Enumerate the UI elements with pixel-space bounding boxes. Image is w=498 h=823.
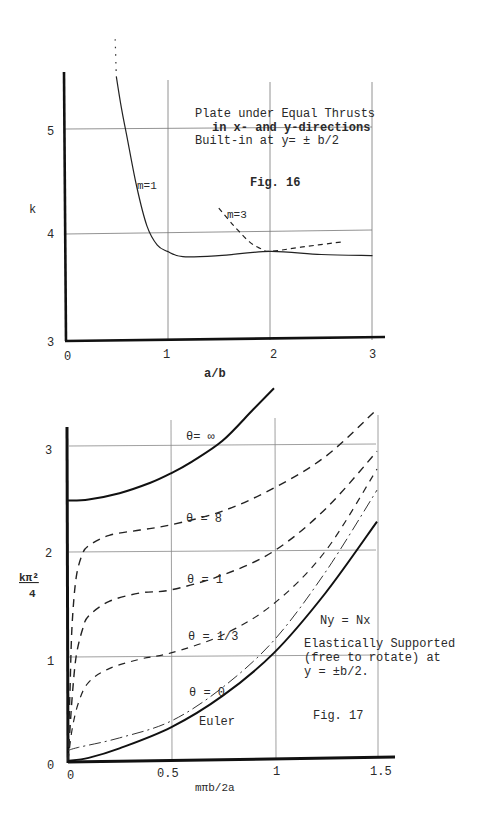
fig16-xtick-3: 3 — [369, 348, 376, 362]
fig17-ytick-3: 3 — [45, 444, 52, 458]
fig17-x-axis — [68, 757, 395, 762]
fig16-ylabel: k — [29, 203, 36, 217]
fig17-annotation-line2: (free to rotate) at — [304, 651, 441, 665]
fig16-curve-m1-extension — [115, 39, 116, 76]
fig17-label-theta-infinity: θ= ∞ — [186, 430, 215, 444]
fig16-xtick-0: 0 — [64, 350, 71, 364]
fig17-label-theta-one-third: θ = 1/3 — [188, 630, 238, 644]
fig17-xtick-1: 1 — [273, 765, 280, 779]
fig16-label-m3: m=3 — [227, 209, 247, 221]
fig17-label-theta-8: θ = 8 — [186, 512, 222, 526]
fig17-ytick-0: 0 — [47, 759, 54, 773]
fig16-ytick-4: 4 — [47, 228, 54, 242]
fig16-figure-label: Fig. 16 — [250, 176, 300, 190]
fig16-xlabel: a/b — [204, 367, 226, 381]
fig16-xtick-1: 1 — [163, 348, 170, 362]
fig17-xtick-15: 1.5 — [370, 765, 392, 779]
fig16-title-line2: in x- and y-directions — [212, 121, 370, 135]
fig17-xtick-0: 0 — [67, 769, 74, 783]
fig16-label-m1: m=1 — [137, 180, 157, 192]
fig17-ytick-1: 1 — [47, 655, 54, 669]
fig17-ylabel-numerator: kπ² — [19, 572, 39, 584]
fig17-annotation-line3: y = ±b/2. — [304, 665, 369, 679]
fig17-label-euler: Euler — [199, 715, 235, 729]
fig16-y-axis — [64, 72, 66, 341]
fig16-title-line3: Built-in at y= ± b/2 — [195, 134, 339, 148]
fig17-chart: 3 2 1 0 0 0.5 1 1.5 kπ² 4 mπb/2a θ= ∞ θ … — [19, 388, 455, 794]
fig17-label-theta-0: θ = 0 — [189, 686, 225, 700]
fig17-xtick-05: 0.5 — [157, 767, 179, 781]
fig16-ytick-3: 3 — [47, 336, 54, 350]
fig16-chart: 5 4 3 0 1 2 3 k a/b Plate under Equal Th… — [29, 39, 385, 381]
fig17-xlabel: mπb/2a — [195, 782, 235, 794]
fig16-title-line1: Plate under Equal Thrusts — [195, 107, 375, 121]
fig17-figure-label: Fig. 17 — [313, 709, 363, 723]
fig17-annotation-line1: Elastically Supported — [304, 637, 455, 651]
fig17-ytick-2: 2 — [45, 547, 52, 561]
fig16-x-axis — [65, 337, 385, 341]
fig16-curve-m1 — [116, 76, 372, 257]
fig17-ylabel-denominator: 4 — [29, 588, 36, 600]
fig16-ytick-5: 5 — [47, 125, 54, 139]
fig16-xtick-2: 2 — [270, 348, 277, 362]
fig17-label-theta-1: θ = 1 — [187, 573, 223, 587]
fig17-y-axis — [67, 427, 68, 763]
fig17-annotation-ny-nx: Ny = Nx — [320, 614, 370, 628]
figure-page: 5 4 3 0 1 2 3 k a/b Plate under Equal Th… — [0, 0, 498, 823]
